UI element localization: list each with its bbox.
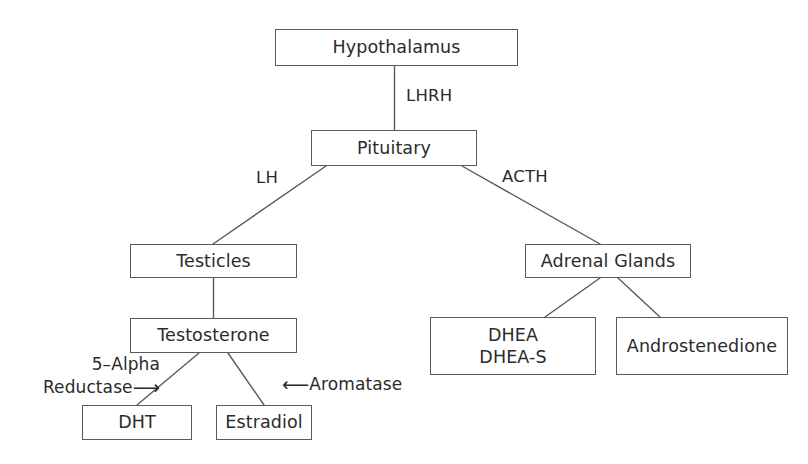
- node-dht[interactable]: DHT: [82, 405, 192, 440]
- node-label-dhea: DHEA: [488, 324, 538, 346]
- node-testicles[interactable]: Testicles: [130, 244, 297, 278]
- enzyme-5-alpha-reductase-line2: Reductase: [43, 377, 133, 397]
- node-label-dht: DHT: [118, 411, 156, 433]
- node-dhea[interactable]: DHEA DHEA-S: [430, 317, 596, 375]
- node-label-androstenedione: Androstenedione: [627, 335, 777, 357]
- node-testosterone[interactable]: Testosterone: [130, 318, 297, 353]
- node-estradiol[interactable]: Estradiol: [216, 405, 312, 440]
- node-label-testosterone: Testosterone: [157, 324, 270, 346]
- node-label-pituitary: Pituitary: [357, 137, 431, 159]
- node-androstenedione[interactable]: Androstenedione: [616, 317, 788, 375]
- enzyme-label-aromatase: ⟵Aromatase: [282, 372, 402, 397]
- edge-adrenal-androstenedione: [618, 278, 660, 317]
- node-label-testicles: Testicles: [176, 250, 251, 272]
- node-hypothalamus[interactable]: Hypothalamus: [275, 29, 518, 66]
- enzyme-label-5-alpha-reductase: 5–Alpha Reductase⟶: [10, 353, 160, 400]
- enzyme-5-alpha-reductase-line1: 5–Alpha: [92, 354, 160, 374]
- edge-label-lhrh: LHRH: [404, 86, 454, 106]
- edge-testosterone-estradiol: [228, 353, 264, 405]
- node-pituitary[interactable]: Pituitary: [311, 130, 477, 166]
- node-label-dhea-s: DHEA-S: [479, 346, 546, 368]
- node-label-estradiol: Estradiol: [225, 411, 302, 433]
- node-label-adrenal-glands: Adrenal Glands: [541, 250, 675, 272]
- arrow-right-icon: ⟶: [133, 376, 160, 398]
- enzyme-aromatase-text: Aromatase: [309, 374, 402, 394]
- diagram-canvas: Hypothalamus Pituitary Testicles Adrenal…: [0, 0, 808, 464]
- edge-label-lh: LH: [254, 168, 280, 188]
- arrow-left-icon: ⟵: [282, 373, 309, 395]
- edge-adrenal-dhea: [545, 278, 600, 317]
- node-adrenal-glands[interactable]: Adrenal Glands: [525, 244, 691, 278]
- node-label-hypothalamus: Hypothalamus: [332, 36, 460, 58]
- edge-label-acth: ACTH: [500, 167, 550, 187]
